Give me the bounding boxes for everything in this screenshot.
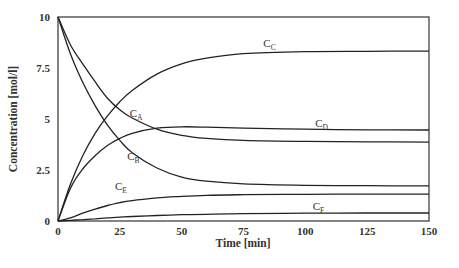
concentration-chart: 02.557.510 0255075100125150 CACBCCCDCECF… bbox=[0, 0, 459, 268]
y-tick-label: 7.5 bbox=[36, 62, 50, 74]
x-axis-ticks: 0255075100125150 bbox=[55, 225, 438, 237]
data-curves bbox=[58, 17, 429, 221]
y-tick-label: 2.5 bbox=[36, 164, 50, 176]
y-axis-ticks: 02.557.510 bbox=[36, 11, 50, 227]
series-label-c-c: CC bbox=[263, 37, 275, 52]
plot-frame bbox=[58, 17, 429, 221]
y-tick-label: 10 bbox=[39, 11, 51, 23]
x-tick-label: 25 bbox=[114, 225, 126, 237]
curve-c-a bbox=[58, 17, 429, 142]
x-tick-label: 150 bbox=[421, 225, 438, 237]
series-label-c-b: CB bbox=[127, 150, 139, 165]
y-axis-label: Concentration [mol/l] bbox=[7, 66, 19, 172]
x-tick-label: 75 bbox=[238, 225, 250, 237]
curve-c-b bbox=[58, 17, 429, 186]
x-tick-label: 100 bbox=[297, 225, 314, 237]
x-tick-label: 50 bbox=[176, 225, 188, 237]
curve-c-c bbox=[58, 51, 429, 221]
x-tick-label: 125 bbox=[359, 225, 376, 237]
curve-c-f bbox=[58, 213, 429, 221]
series-label-c-e: CE bbox=[115, 180, 127, 195]
x-axis-label: Time [min] bbox=[215, 237, 270, 249]
y-tick-label: 5 bbox=[45, 113, 51, 125]
y-tick-label: 0 bbox=[45, 215, 51, 227]
series-label-c-a: CA bbox=[130, 107, 143, 122]
x-tick-label: 0 bbox=[55, 225, 61, 237]
